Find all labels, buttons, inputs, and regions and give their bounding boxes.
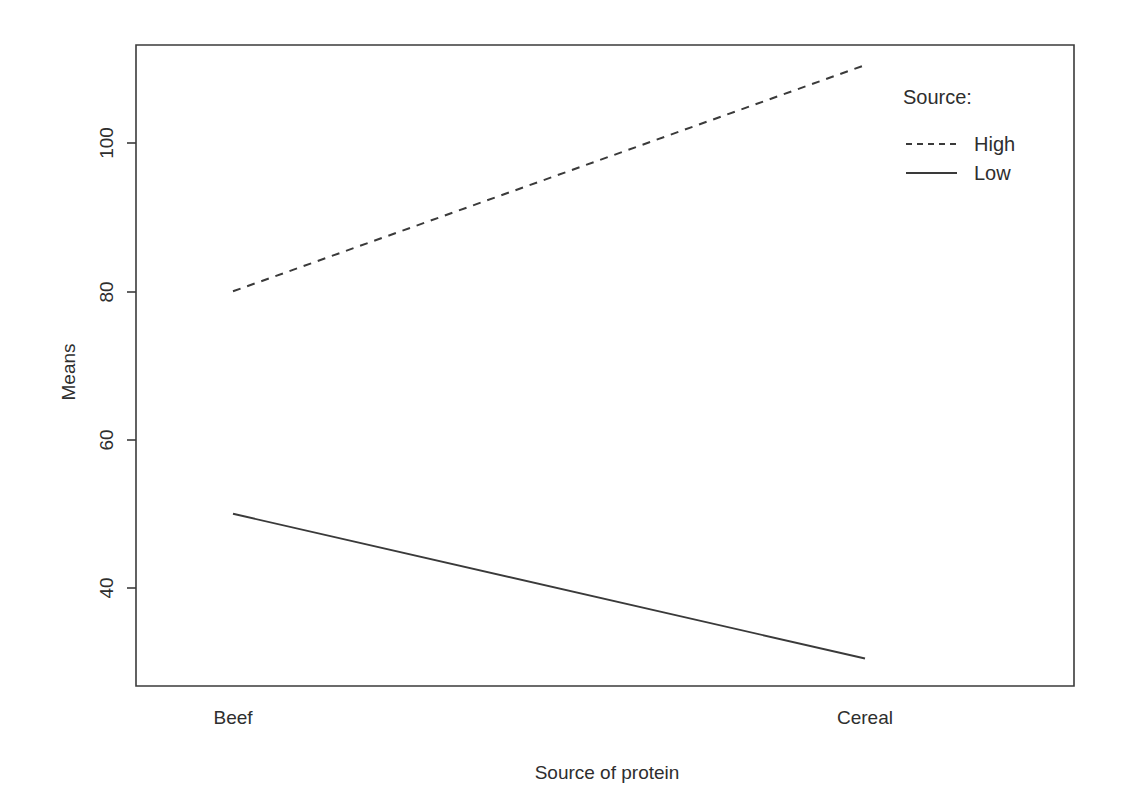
series-line-low bbox=[233, 514, 865, 659]
y-tick-label-40: 40 bbox=[96, 577, 117, 598]
legend: Source: High Low bbox=[903, 86, 1015, 184]
plot-panel-border bbox=[136, 45, 1074, 686]
x-tick-label-cereal: Cereal bbox=[837, 707, 893, 728]
interaction-plot: 100 80 60 40 Means Beef Cereal Source of… bbox=[0, 0, 1128, 809]
y-tick-label-80: 80 bbox=[96, 281, 117, 302]
y-axis-title: Means bbox=[58, 343, 79, 400]
x-tick-label-beef: Beef bbox=[213, 707, 253, 728]
legend-entry-high: High bbox=[906, 133, 1015, 155]
legend-title: Source: bbox=[903, 86, 972, 108]
y-tick-label-60: 60 bbox=[96, 429, 117, 450]
legend-entry-low: Low bbox=[906, 162, 1011, 184]
y-tick-label-100: 100 bbox=[96, 127, 117, 159]
legend-label-high: High bbox=[974, 133, 1015, 155]
legend-label-low: Low bbox=[974, 162, 1011, 184]
x-axis-title: Source of protein bbox=[535, 762, 680, 783]
chart-page: 100 80 60 40 Means Beef Cereal Source of… bbox=[0, 0, 1128, 809]
series-line-high bbox=[233, 65, 865, 291]
